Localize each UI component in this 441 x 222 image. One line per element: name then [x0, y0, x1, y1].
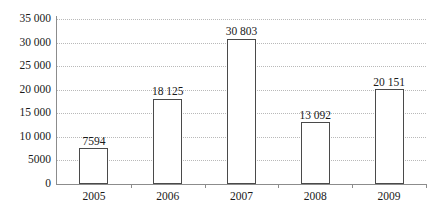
bar[interactable]: 30 803 — [227, 39, 256, 184]
y-axis-tick-label: 0 — [45, 178, 51, 190]
x-axis-tick-label: 2009 — [378, 191, 401, 203]
y-axis-tick-label: 30 000 — [19, 37, 51, 49]
plot-area: 759418 12530 80313 09220 151 — [57, 19, 426, 184]
x-axis-tick-label: 2007 — [230, 191, 253, 203]
x-axis-line — [57, 184, 426, 185]
bar-chart: 759418 12530 80313 09220 151 0500010 000… — [0, 0, 441, 222]
y-axis-tick-label: 15 000 — [19, 108, 51, 120]
y-axis-tick-label: 20 000 — [19, 84, 51, 96]
x-axis-tick — [426, 184, 427, 188]
x-axis-tick — [205, 184, 206, 188]
bar[interactable]: 7594 — [79, 148, 108, 184]
x-axis-tick — [352, 184, 353, 188]
bar-value-label: 13 092 — [299, 110, 331, 122]
bar[interactable]: 18 125 — [153, 99, 182, 184]
bar[interactable]: 13 092 — [301, 122, 330, 184]
x-axis-tick-label: 2008 — [304, 191, 327, 203]
x-axis-tick-label: 2006 — [156, 191, 179, 203]
bar-value-label: 18 125 — [152, 86, 184, 98]
y-axis-tick-label: 35 000 — [19, 13, 51, 25]
bar-value-label: 30 803 — [226, 26, 258, 38]
bar[interactable]: 20 151 — [375, 89, 404, 184]
x-axis-tick — [131, 184, 132, 188]
bar-value-label: 7594 — [82, 136, 105, 148]
bar-value-label: 20 151 — [373, 77, 405, 89]
x-axis-tick — [278, 184, 279, 188]
y-axis-tick-label: 25 000 — [19, 60, 51, 72]
x-axis-tick-label: 2005 — [82, 191, 105, 203]
gridline — [57, 19, 426, 20]
y-axis-tick-label: 5000 — [28, 155, 51, 167]
y-axis-tick-label: 10 000 — [19, 131, 51, 143]
